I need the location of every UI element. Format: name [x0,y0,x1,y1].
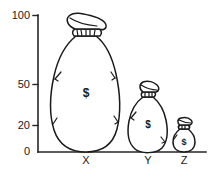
x-label-z: Z [181,154,188,166]
bag-z-dollar-symbol: $ [181,137,186,147]
bag-y-dollar-symbol: $ [145,119,151,130]
bag-y: $ [128,81,167,152]
y-tick-label-100: 100 [12,9,30,21]
bag-x-neck [67,13,106,29]
y-tick-label-50: 50 [18,78,30,90]
y-tick-label-0: 0 [24,145,30,157]
bag-x-dollar-symbol: $ [83,86,90,100]
bag-z-neck [178,118,192,125]
chart-canvas: 100 50 20 0 [0,0,212,171]
y-tick-label-20: 20 [18,119,30,131]
x-label-y: Y [144,154,152,166]
x-category-labels: X Y Z [82,154,187,166]
x-label-x: X [82,154,90,166]
money-bag-chart: 100 50 20 0 [0,0,212,171]
bag-x: $ [51,13,120,152]
y-tick-labels: 100 50 20 0 [12,9,30,157]
bag-z: $ [173,118,195,152]
